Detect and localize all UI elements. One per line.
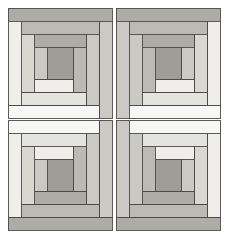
log-6-bottom — [21, 92, 86, 105]
log-11-right — [99, 21, 112, 118]
log-12-top — [8, 8, 112, 21]
log-12-top — [8, 217, 112, 230]
log-3-right — [142, 146, 155, 191]
log-2-bottom — [34, 79, 73, 92]
log-6-bottom — [142, 133, 207, 146]
log-12-top — [116, 217, 220, 230]
block-top-right — [116, 8, 220, 118]
log-11-right — [116, 120, 129, 217]
log-11-right — [99, 120, 112, 217]
log-1-left — [34, 159, 47, 191]
quilt-artwork — [0, 0, 228, 238]
log-8-top — [129, 204, 207, 217]
log-3-right — [73, 47, 86, 92]
log-10-bottom — [129, 120, 220, 133]
log-7-right — [129, 34, 142, 105]
log-2-bottom — [155, 79, 194, 92]
log-7-right — [129, 133, 142, 204]
log-5-left — [21, 34, 34, 92]
log-2-bottom — [155, 146, 194, 159]
log-8-top — [129, 21, 207, 34]
log-5-left — [21, 146, 34, 204]
log-8-top — [21, 204, 99, 217]
log-9-left — [8, 21, 21, 105]
center-square — [155, 47, 181, 79]
center-square — [47, 47, 73, 79]
log-8-top — [21, 21, 99, 34]
log-10-bottom — [8, 105, 99, 118]
log-7-right — [86, 34, 99, 105]
block-bottom-left — [8, 120, 112, 230]
log-11-right — [116, 21, 129, 118]
log-10-bottom — [8, 120, 99, 133]
log-5-left — [194, 34, 207, 92]
log-6-bottom — [142, 92, 207, 105]
log-10-bottom — [129, 105, 220, 118]
log-9-left — [207, 21, 220, 105]
block-bottom-right — [116, 120, 220, 230]
log-1-left — [34, 47, 47, 79]
log-12-top — [116, 8, 220, 21]
log-3-right — [73, 146, 86, 191]
log-7-right — [86, 133, 99, 204]
log-6-bottom — [21, 133, 86, 146]
quilt-canvas — [0, 0, 228, 238]
block-top-left — [8, 8, 112, 118]
log-5-left — [194, 146, 207, 204]
center-square — [47, 159, 73, 191]
log-2-bottom — [34, 146, 73, 159]
log-3-right — [142, 47, 155, 92]
log-1-left — [181, 159, 194, 191]
log-4-top — [34, 191, 86, 204]
log-9-left — [8, 133, 21, 217]
log-4-top — [142, 34, 194, 47]
log-4-top — [34, 34, 86, 47]
log-1-left — [181, 47, 194, 79]
log-4-top — [142, 191, 194, 204]
log-9-left — [207, 133, 220, 217]
center-square — [155, 159, 181, 191]
